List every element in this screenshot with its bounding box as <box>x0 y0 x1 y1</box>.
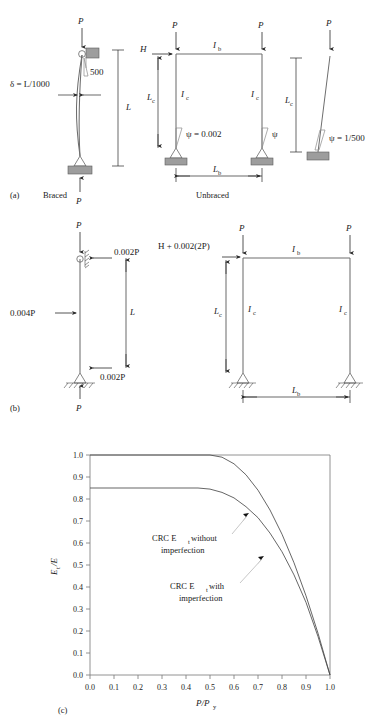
b-column-inertia-label-left: I <box>247 304 252 314</box>
chart-ylabel: E <box>49 569 59 576</box>
annotation-with-leader <box>240 559 262 583</box>
chart-x-tick-label: 0.0 <box>85 683 95 692</box>
b-notional-label-top: 0.002P <box>114 247 139 257</box>
frame-load-label-left: P <box>171 20 178 30</box>
b-column-inertia-sub-right: c <box>344 309 347 316</box>
panel-c-tag: (c) <box>58 705 68 715</box>
panel-a-leaning-column: P ψ = 1/500 L c <box>284 18 365 160</box>
chart-x-tick-label: 0.1 <box>109 683 119 692</box>
beam-inertia-sub: b <box>218 45 221 52</box>
b-beam-inertia-label: I <box>291 244 296 254</box>
chart-y-tick-label: 0.8 <box>73 495 83 504</box>
panel-a-unbraced-frame: P P H I b I c I c L c ψ <box>139 20 278 182</box>
chart-x-tick-label: 0.2 <box>133 683 143 692</box>
annotation-without-line1: CRC E <box>152 533 176 543</box>
support-block-left <box>165 158 187 165</box>
pin-support-bottom <box>74 156 86 166</box>
chart-y-tick-label: 0.6 <box>73 539 83 548</box>
b-column-inertia-sub-left: c <box>253 309 256 316</box>
frame-span-sub: b <box>218 169 221 176</box>
chart-y-tick-label: 0.3 <box>73 605 83 614</box>
psi-label-right: ψ <box>272 129 278 139</box>
chart-y-tick-label: 0.4 <box>73 583 83 592</box>
b-pin-support-bottom <box>74 373 86 383</box>
annotation-without-sub: t <box>188 538 190 545</box>
b-frame-load-label-right: P <box>345 223 352 233</box>
column-inertia-sub-left: c <box>186 94 189 101</box>
chart-x-ticks: 0.00.10.20.30.40.50.60.70.80.91.0 <box>85 675 335 692</box>
annotation-without-leader <box>232 516 247 534</box>
lean-support-block <box>307 152 329 160</box>
annotation-with-arrowhead <box>257 556 264 565</box>
annotation-without-line2: imperfection <box>161 545 205 555</box>
figure-root: P 500 δ = L/1000 P L <box>0 0 387 721</box>
frame-height-sub: c <box>152 97 155 104</box>
length-label: L <box>125 102 131 112</box>
annotation-with-line1: CRC E <box>170 581 194 591</box>
b-notional-label-mid: 0.004P <box>10 308 35 318</box>
b-ground-hatch-left <box>229 383 253 388</box>
b-frame-height-sub: c <box>219 311 222 318</box>
lateral-load-label: H <box>139 44 147 54</box>
panel-b: P 0.002P 0.004P 0.002P <box>10 220 363 413</box>
chart-ylabel-rest: /E <box>49 557 59 567</box>
b-notional-label-bottom: 0.002P <box>100 372 125 382</box>
chart-y-tick-label: 0.2 <box>73 627 83 636</box>
annotation-with-line1b: with <box>209 581 225 591</box>
load-label-top: P <box>77 16 84 26</box>
chart-xlabel-sub: y <box>213 703 217 710</box>
chart-y-tick-label: 0.7 <box>73 517 83 526</box>
b-length-label: L <box>129 307 135 317</box>
chart-y-tick-label: 0.0 <box>73 671 83 680</box>
panel-b-unbraced-frame: P P H + 0.002(2P) I b I c I c L c <box>158 223 363 403</box>
beam-inertia-label: I <box>212 40 217 50</box>
figure-svg: P 500 δ = L/1000 P L <box>0 0 387 721</box>
chart-x-tick-label: 0.7 <box>253 683 263 692</box>
b-pin-support-right <box>344 373 356 383</box>
panel-a-braced-column: P 500 δ = L/1000 P L <box>10 16 131 206</box>
chart-ylabel-sub: t <box>54 567 61 569</box>
chart-x-tick-label: 0.8 <box>277 683 287 692</box>
b-lateral-load-label: H + 0.002(2P) <box>158 241 210 251</box>
panel-a: P 500 δ = L/1000 P L <box>10 16 365 206</box>
b-wall-hatch-top <box>85 250 89 268</box>
support-block-bottom <box>68 166 92 174</box>
b-column-inertia-label-right: I <box>338 304 343 314</box>
column-inertia-label-right: I <box>250 89 255 99</box>
panel-a-caption-braced: Braced <box>43 190 68 200</box>
b-frame-span-sub: b <box>297 390 300 397</box>
annotation-without-arrowhead <box>242 513 249 522</box>
chart-xlabel: P/P <box>195 698 210 708</box>
pin-support-right <box>256 148 268 158</box>
chart-x-tick-label: 0.5 <box>205 683 215 692</box>
brace-block <box>86 48 99 58</box>
b-frame-load-label-left: P <box>238 223 245 233</box>
chart-ylabel-group: E t /E <box>49 557 61 576</box>
chart-y-ticks: 0.00.10.20.30.40.50.60.70.80.91.0 <box>73 451 90 680</box>
lean-load-label: P <box>325 18 332 28</box>
b-ground-hatch-right <box>336 383 360 388</box>
chart-y-tick-label: 0.5 <box>73 561 83 570</box>
annotation-with-sub: t <box>206 586 208 593</box>
pin-support-left <box>170 148 182 158</box>
panel-b-braced-column: P 0.002P 0.004P 0.002P <box>10 220 139 413</box>
b-beam-inertia-sub: b <box>297 249 300 256</box>
panel-a-caption-unbraced: Unbraced <box>196 190 230 200</box>
chart-x-tick-label: 0.3 <box>157 683 167 692</box>
b-load-label-top: P <box>75 220 82 230</box>
load-label-bottom: P <box>75 196 82 206</box>
psi-label-left: ψ = 0.002 <box>186 129 221 139</box>
slope-label: 500 <box>90 67 104 77</box>
column-inertia-sub-right: c <box>256 94 259 101</box>
b-load-label-bottom: P <box>75 403 82 413</box>
chart-y-tick-label: 0.9 <box>73 473 83 482</box>
panel-c-chart: 0.00.10.20.30.40.50.60.70.80.91.0 0.00.1… <box>49 451 335 715</box>
lean-psi-label: ψ = 1/500 <box>329 133 365 143</box>
panel-a-tag: (a) <box>10 190 20 200</box>
chart-y-tick-label: 0.1 <box>73 649 83 658</box>
chart-x-tick-label: 0.4 <box>181 683 191 692</box>
chart-x-tick-label: 0.6 <box>229 683 239 692</box>
b-pin-support-left <box>237 373 249 383</box>
chart-x-tick-label: 1.0 <box>325 683 335 692</box>
chart-x-tick-label: 0.9 <box>301 683 311 692</box>
